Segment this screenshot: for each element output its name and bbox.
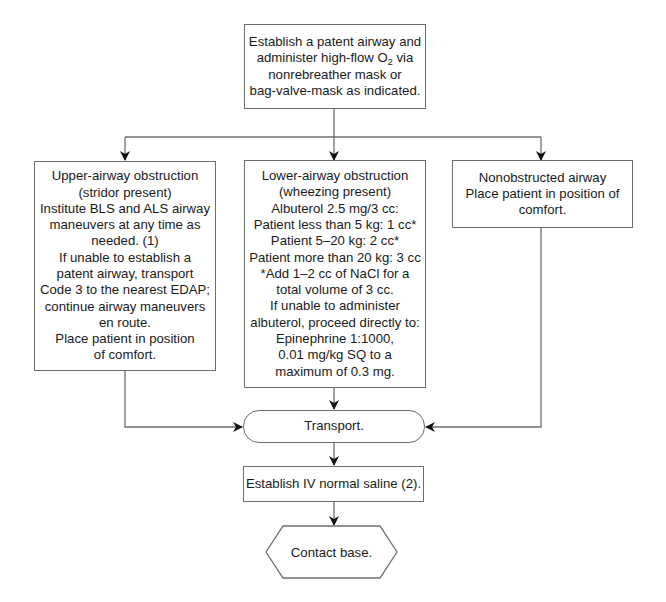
lower-line: Patient less than 5 kg: 1 cc* xyxy=(254,217,417,233)
nonobstructed-line: comfort. xyxy=(519,202,567,218)
upper-line: (stridor present) xyxy=(78,185,171,201)
start-line-3: nonrebreather mask or xyxy=(268,67,401,83)
contact-base-terminal: Contact base. xyxy=(265,525,398,579)
upper-line: maneuvers at any time as xyxy=(50,217,201,233)
lower-line: maximum of 0.3 mg. xyxy=(275,364,394,380)
start-line-2a: administer high-flow O xyxy=(257,50,388,65)
upper-line: Institute BLS and ALS airway xyxy=(40,201,210,217)
lower-line: Epinephrine 1:1000, xyxy=(276,331,394,347)
nonobstructed-airway-box: Nonobstructed airway Place patient in po… xyxy=(452,160,633,228)
upper-line: Upper-airway obstruction xyxy=(52,168,199,184)
start-box-establish-airway: Establish a patent airway and administer… xyxy=(244,24,426,109)
upper-line: en route. xyxy=(99,315,151,331)
establish-iv-box: Establish IV normal saline (2). xyxy=(243,466,424,502)
lower-line: If unable to administer xyxy=(270,298,400,314)
lower-airway-obstruction-box: Lower-airway obstruction (wheezing prese… xyxy=(244,160,426,388)
lower-line: albuterol, proceed directly to: xyxy=(250,315,419,331)
nonobstructed-line: Nonobstructed airway xyxy=(479,170,607,186)
contact-base-label: Contact base. xyxy=(265,525,398,579)
lower-line: Albuterol 2.5 mg/3 cc: xyxy=(271,201,399,217)
upper-line: Place patient in position xyxy=(55,331,194,347)
start-line-1: Establish a patent airway and xyxy=(249,34,421,50)
transport-node: Transport. xyxy=(243,410,425,443)
lower-line: Lower-airway obstruction xyxy=(262,168,409,184)
lower-line: total volume of 3 cc. xyxy=(276,282,393,298)
upper-line: needed. (1) xyxy=(91,233,158,249)
lower-line: Patient more than 20 kg: 3 cc xyxy=(249,250,421,266)
start-line-4: bag-valve-mask as indicated. xyxy=(250,83,421,99)
iv-label: Establish IV normal saline (2). xyxy=(246,476,421,492)
upper-line: patent airway, transport xyxy=(57,266,194,282)
start-line-2: administer high-flow O2 via xyxy=(257,50,414,66)
lower-line: (wheezing present) xyxy=(279,184,391,200)
upper-airway-obstruction-box: Upper-airway obstruction (stridor presen… xyxy=(34,161,216,371)
lower-line: *Add 1–2 cc of NaCl for a xyxy=(261,266,410,282)
nonobstructed-line: Place patient in position of xyxy=(466,186,620,202)
transport-label: Transport. xyxy=(304,418,364,434)
lower-line: Patient 5–20 kg: 2 cc* xyxy=(271,233,399,249)
upper-line: If unable to establish a xyxy=(59,250,191,266)
upper-line: continue airway maneuvers xyxy=(45,299,206,315)
lower-line: 0.01 mg/kg SQ to a xyxy=(278,347,392,363)
upper-line: Code 3 to the nearest EDAP; xyxy=(40,282,210,298)
upper-line: of comfort. xyxy=(94,347,156,363)
start-line-2b: via xyxy=(393,50,414,65)
